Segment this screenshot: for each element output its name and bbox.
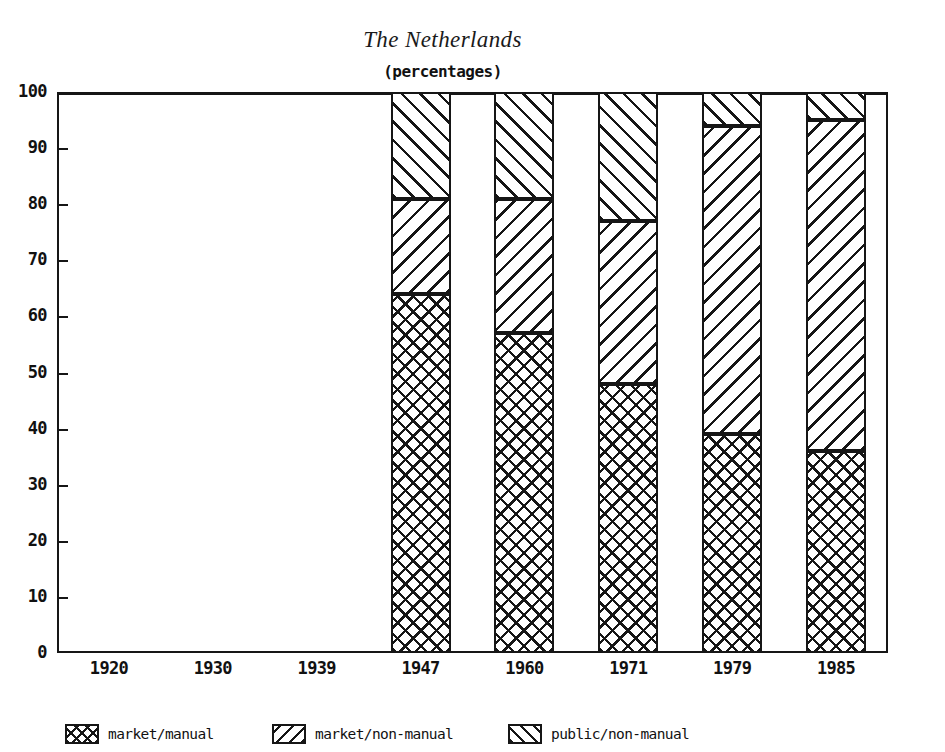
y-axis-tick-mark xyxy=(57,260,68,262)
legend-swatch-icon xyxy=(508,724,542,744)
bar-segment-market-non-manual xyxy=(494,199,554,334)
x-axis-tick-label: 1920 xyxy=(90,658,128,678)
legend-label: market/manual xyxy=(108,726,214,742)
bar-segment-market-non-manual xyxy=(702,126,762,435)
legend-swatch-icon xyxy=(65,724,99,744)
y-axis-tick-label: 50 xyxy=(0,362,47,382)
bar-1971 xyxy=(598,92,658,653)
legend-item-market-manual: market/manual xyxy=(65,722,214,746)
legend-item-public-non-manual: public/non-manual xyxy=(508,722,689,746)
x-axis-tick-label: 1960 xyxy=(505,658,543,678)
bar-segment-public-non-manual xyxy=(702,92,762,126)
stacked-bar-chart: The Netherlands (percentages) 1009080706… xyxy=(0,0,945,752)
chart-legend: market/manualmarket/non-manualpublic/non… xyxy=(40,722,920,748)
y-axis-tick-mark xyxy=(57,204,68,206)
y-axis-tick-label: 20 xyxy=(0,530,47,550)
y-axis-tick-label: 0 xyxy=(0,642,47,662)
y-axis-tick-label: 30 xyxy=(0,474,47,494)
bar-segment-market-non-manual xyxy=(391,199,451,294)
bar-segment-market-manual xyxy=(391,294,451,653)
chart-title: The Netherlands xyxy=(0,27,885,53)
y-axis-tick-label: 80 xyxy=(0,193,47,213)
y-axis-tick-mark xyxy=(57,373,68,375)
x-axis-tick-label: 1971 xyxy=(609,658,647,678)
y-axis-tick-mark xyxy=(57,148,68,150)
bar-1960 xyxy=(494,92,554,653)
y-axis-tick-label: 100 xyxy=(0,81,47,101)
legend-label: market/non-manual xyxy=(315,726,453,742)
bar-segment-market-manual xyxy=(494,333,554,653)
x-axis-tick-label: 1939 xyxy=(298,658,336,678)
y-axis-tick-mark xyxy=(57,316,68,318)
bar-segment-market-manual xyxy=(598,384,658,653)
y-axis-tick-label: 60 xyxy=(0,305,47,325)
x-axis-tick-label: 1930 xyxy=(194,658,232,678)
legend-swatch-icon xyxy=(272,724,306,744)
plot-area: 1009080706050403020100 19201930193919471… xyxy=(57,92,888,653)
y-axis-tick-label: 70 xyxy=(0,249,47,269)
y-axis-tick-mark xyxy=(57,485,68,487)
x-axis-tick-label: 1985 xyxy=(817,658,855,678)
bar-1985 xyxy=(806,92,866,653)
x-axis-tick-label: 1947 xyxy=(401,658,439,678)
y-axis-tick-mark xyxy=(57,429,68,431)
bar-1947 xyxy=(391,92,451,653)
bar-segment-market-manual xyxy=(806,451,866,653)
bar-segment-market-non-manual xyxy=(598,221,658,384)
bar-1979 xyxy=(702,92,762,653)
bar-segment-public-non-manual xyxy=(391,92,451,199)
legend-item-market-non-manual: market/non-manual xyxy=(272,722,453,746)
bar-segment-public-non-manual xyxy=(494,92,554,199)
plot-frame xyxy=(57,92,888,653)
bar-segment-market-non-manual xyxy=(806,120,866,451)
bar-segment-public-non-manual xyxy=(598,92,658,221)
legend-label: public/non-manual xyxy=(551,726,689,742)
y-axis-tick-label: 90 xyxy=(0,137,47,157)
x-axis-tick-label: 1979 xyxy=(713,658,751,678)
y-axis-tick-label: 40 xyxy=(0,418,47,438)
y-axis-tick-mark xyxy=(57,541,68,543)
chart-subtitle: (percentages) xyxy=(0,62,885,81)
y-axis-tick-label: 10 xyxy=(0,586,47,606)
bar-segment-market-manual xyxy=(702,434,762,653)
bar-segment-public-non-manual xyxy=(806,92,866,120)
y-axis-tick-mark xyxy=(57,597,68,599)
